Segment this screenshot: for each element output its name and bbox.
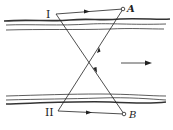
arrow-ii-to-b-icon: [86, 111, 92, 115]
arrow-i-to-a-icon: [84, 10, 90, 14]
label-point-a: A: [126, 3, 135, 14]
point-b-marker: [122, 112, 126, 116]
label-station-1: I: [46, 8, 50, 21]
lower-bank: [6, 94, 166, 104]
label-station-2: II: [45, 106, 54, 119]
river-diagram: I A II B: [0, 0, 173, 130]
flow-direction-arrow-icon: [121, 61, 152, 66]
upper-bank: [4, 19, 170, 30]
arrow-crossing-to-a-icon: [97, 47, 101, 53]
label-point-b: B: [128, 109, 136, 120]
point-a-marker: [121, 7, 125, 11]
